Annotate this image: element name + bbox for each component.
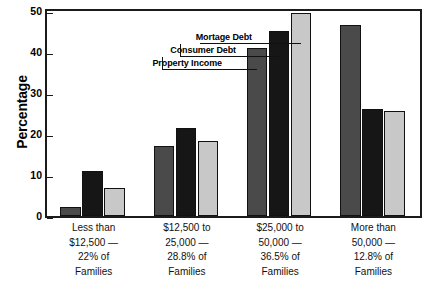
y-tick-label: 0 (20, 210, 42, 222)
x-category-label-line: Families (43, 265, 144, 280)
bar-property-income (104, 188, 125, 216)
bar-consumer-debt (82, 171, 103, 216)
x-category-label-line: $12,500 — (43, 236, 144, 251)
bars-layer (47, 11, 420, 216)
x-category-label-line: $25,000 to (230, 221, 331, 236)
y-axis-tick-labels: 01020304050 (16, 9, 42, 214)
y-tick-mark (47, 218, 53, 219)
x-category-label: More than50,000 —12.8% ofFamilies (323, 221, 424, 279)
bar-mortage-debt (154, 146, 175, 216)
bar-property-income (198, 141, 219, 216)
x-axis-category-labels: Less than$12,500 —22% ofFamilies$12,500 … (47, 221, 420, 295)
bar-mortage-debt (340, 25, 361, 216)
x-category-label-line: 28.8% of (136, 250, 237, 265)
y-tick-label: 50 (20, 5, 42, 17)
bar-group (340, 11, 405, 216)
x-category-label: $25,000 to50,000 —36.5% ofFamilies (230, 221, 331, 279)
x-category-label: Less than$12,500 —22% ofFamilies (43, 221, 144, 279)
bar-consumer-debt (362, 109, 383, 216)
bar-consumer-debt (269, 31, 290, 216)
y-tick-mark (47, 177, 53, 178)
x-category-label-line: Families (323, 265, 424, 280)
x-category-label-line: 50,000 — (323, 236, 424, 251)
y-tick-label: 40 (20, 46, 42, 58)
x-category-label-line: 22% of (43, 250, 144, 265)
bar-group (154, 11, 219, 216)
bar-chart: Percentage 01020304050 Mortage DebtConsu… (0, 0, 433, 297)
bar-mortage-debt (247, 48, 268, 216)
y-tick-label: 10 (20, 169, 42, 181)
bar-group (247, 11, 312, 216)
y-tick-mark (47, 136, 53, 137)
y-tick-mark (47, 13, 53, 14)
y-tick-label: 30 (20, 87, 42, 99)
y-tick-mark (47, 95, 53, 96)
y-tick-mark (47, 54, 53, 55)
x-category-label-line: More than (323, 221, 424, 236)
bar-property-income (291, 13, 312, 216)
bar-property-income (384, 111, 405, 216)
x-category-label-line: Families (230, 265, 331, 280)
chart-title (0, 0, 433, 2)
bar-consumer-debt (176, 128, 197, 216)
bar-mortage-debt (60, 207, 81, 216)
x-category-label-line: $12,500 to (136, 221, 237, 236)
x-category-label-line: Less than (43, 221, 144, 236)
x-category-label-line: 12.8% of (323, 250, 424, 265)
x-category-label-line: 36.5% of (230, 250, 331, 265)
y-tick-label: 20 (20, 128, 42, 140)
x-category-label-line: 50,000 — (230, 236, 331, 251)
x-category-label-line: Families (136, 265, 237, 280)
x-category-label: $12,500 to25,000 —28.8% ofFamilies (136, 221, 237, 279)
bar-group (60, 11, 125, 216)
x-category-label-line: 25,000 — (136, 236, 237, 251)
